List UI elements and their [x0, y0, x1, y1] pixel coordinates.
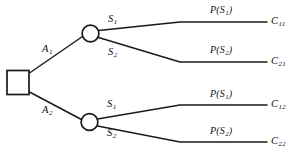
decision-node-square[interactable] [7, 71, 29, 95]
branch-action-a2[interactable] [30, 92, 82, 120]
label-probability-s1-top: P(S1) [210, 5, 232, 15]
branch-action-a1[interactable] [30, 37, 83, 74]
label-outcome-c21: C21 [271, 56, 286, 67]
chance-node-bottom-circle[interactable] [81, 114, 98, 131]
label-state-s1-top: S1 [108, 14, 117, 25]
label-state-s2-bottom: S2 [107, 128, 116, 139]
label-state-s2-top: S2 [108, 47, 117, 58]
label-probability-s1-bottom: P(S1) [210, 89, 232, 99]
label-outcome-c11: C11 [271, 16, 285, 27]
label-outcome-c12: C12 [271, 99, 286, 110]
label-action-a2: A2 [42, 105, 52, 116]
label-probability-s2-top: P(S2) [210, 45, 232, 55]
decision-tree-diagram: A1 A2 S1 S2 S1 S2 P(S1) P(S2) P(S1) P(S2… [0, 0, 294, 155]
branch-state-s2-top[interactable] [99, 38, 268, 63]
label-action-a1: A1 [42, 44, 52, 55]
label-probability-s2-bottom: P(S2) [210, 126, 232, 136]
branch-state-s2-bottom[interactable] [98, 126, 268, 142]
label-state-s1-bottom: S1 [107, 99, 116, 110]
branch-state-s1-bottom[interactable] [98, 105, 268, 119]
label-outcome-c22: C22 [271, 136, 286, 147]
branch-state-s1-top[interactable] [99, 22, 268, 31]
chance-node-top-circle[interactable] [82, 25, 99, 42]
tree-canvas [0, 0, 294, 155]
